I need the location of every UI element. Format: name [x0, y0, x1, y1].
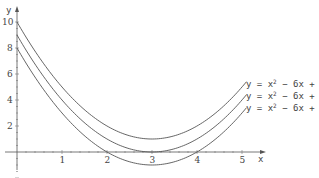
curve-line — [17, 48, 247, 165]
axes: x y — [5, 5, 266, 170]
y-axis-arrow-icon — [15, 6, 19, 12]
y-tick-label: 8 — [7, 43, 13, 53]
curves — [17, 22, 247, 165]
chart: x y 12345246810 y = x2 − 6x + 10y = x2 −… — [0, 0, 319, 178]
curve-label: y = x2 − 6x + 9 — [246, 90, 319, 101]
curve-line — [17, 35, 247, 152]
y-tick-label: 2 — [7, 121, 13, 131]
x-tick-label: 1 — [60, 155, 66, 165]
curve-label: y = x2 − 6x + 10 — [246, 78, 319, 89]
curve-line — [17, 22, 247, 139]
x-tick-label: 5 — [240, 155, 246, 165]
y-axis-label: y — [6, 5, 12, 15]
curve-labels: y = x2 − 6x + 10y = x2 − 6x + 9y = x2 − … — [246, 78, 319, 113]
ticks: 12345246810 — [2, 17, 246, 178]
y-tick-label: 4 — [7, 95, 13, 105]
x-tick-label: 2 — [105, 155, 111, 165]
x-axis-label: x — [258, 154, 264, 164]
y-tick-label: 6 — [7, 69, 13, 79]
y-tick-label: 10 — [2, 17, 14, 27]
x-tick-label: 4 — [195, 155, 201, 165]
x-tick-label: 3 — [150, 155, 156, 165]
curve-label: y = x2 − 6x + 8 — [246, 102, 319, 113]
